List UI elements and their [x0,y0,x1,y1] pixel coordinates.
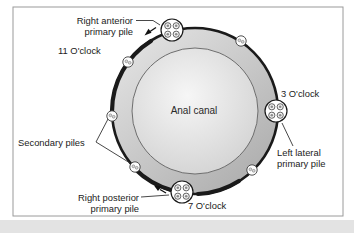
anal-canal-center-label: Anal canal [171,105,218,116]
clock-11-label: 11 O'clock [58,45,101,56]
secondary-pile-8-oclock [130,162,140,172]
right-posterior-label-line2: primary pile [91,203,139,214]
left-lateral-label-line1: Left lateral [277,147,321,158]
clock-7-label: 7 O'clock [188,200,227,211]
secondary-pile-1-oclock [236,36,246,46]
secondary-piles-label: Secondary piles [18,137,85,148]
primary-pile-left-lateral-3-oclock [265,100,287,122]
clock-3-label: 3 O'clock [281,88,320,99]
left-lateral-label-line2: primary pile [277,158,325,169]
right-posterior-label-line1: Right posterior [78,192,139,203]
secondary-pile-10-oclock [123,57,133,67]
secondary-pile-9-oclock [107,111,117,121]
primary-pile-right-anterior-11-oclock [161,19,183,41]
anal-canal-piles-diagram: Right anterior primary pile 11 O'clock 3… [0,0,354,233]
right-anterior-label-line2: primary pile [85,26,133,37]
secondary-pile-5-oclock [247,165,257,175]
figure-canvas: Right anterior primary pile 11 O'clock 3… [0,0,354,233]
right-anterior-label-line1: Right anterior [77,15,133,26]
